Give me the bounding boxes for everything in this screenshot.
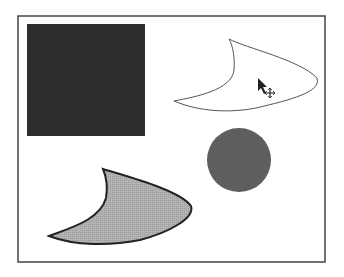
gray-circle-shape[interactable] <box>207 128 271 192</box>
dark-square-shape[interactable] <box>27 24 145 136</box>
drawing-canvas[interactable] <box>0 0 344 277</box>
